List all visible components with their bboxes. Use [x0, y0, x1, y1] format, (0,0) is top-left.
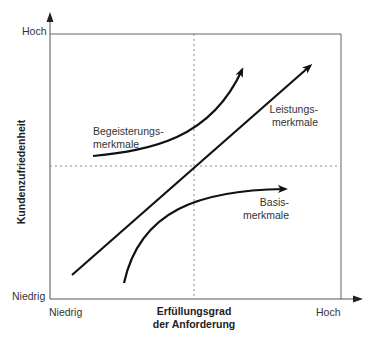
x-high-label: Hoch — [316, 306, 341, 319]
curve-leistungsmerkmale — [72, 66, 310, 275]
label-begeisterungsmerkmale-line1: Begeisterungs- — [93, 125, 164, 138]
x-axis-title: Erfüllungsgrad der Anforderung — [144, 305, 244, 331]
label-begeisterungsmerkmale-line2: merkmale — [93, 138, 164, 151]
label-leistungsmerkmale-line1: Leistungs- — [260, 103, 318, 116]
label-basismerkmale-line1: Basis- — [240, 196, 289, 209]
x-low-label: Niedrig — [49, 306, 82, 319]
x-axis-title-line2: der Anforderung — [144, 318, 244, 331]
x-axis-title-line1: Erfüllungsgrad — [144, 305, 244, 318]
label-basismerkmale: Basis- merkmale — [240, 196, 289, 222]
label-begeisterungsmerkmale: Begeisterungs- merkmale — [93, 125, 164, 151]
kano-diagram-canvas — [0, 0, 374, 344]
y-axis-title: Kundenzufriedenheit — [15, 112, 27, 232]
label-leistungsmerkmale: Leistungs- merkmale — [260, 103, 318, 129]
label-basismerkmale-line2: merkmale — [240, 209, 289, 222]
y-low-label: Niedrig — [12, 290, 45, 303]
label-leistungsmerkmale-line2: merkmale — [260, 116, 318, 129]
y-high-label: Hoch — [22, 25, 47, 38]
